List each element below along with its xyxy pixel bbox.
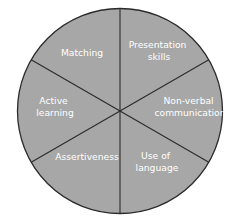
segment-label: Presentation [129, 39, 187, 50]
svg-text:Non-verbal communication: Non-verbal communication [154, 95, 225, 118]
segment-use-of-language: Use of language [136, 150, 179, 173]
svg-text:Assertiveness: Assertiveness [55, 151, 119, 162]
segment-label: Active [39, 95, 68, 106]
segment-label: Matching [61, 47, 103, 58]
svg-text:Active learning: Active learning [36, 95, 73, 118]
segment-matching: Matching [61, 47, 103, 58]
segment-label: language [136, 162, 179, 173]
segment-label: Non-verbal [163, 95, 213, 106]
segment-assertiveness: Assertiveness [55, 151, 119, 162]
segment-label: skills [148, 51, 171, 62]
segment-label: communication [154, 107, 225, 118]
svg-text:Matching: Matching [61, 47, 103, 58]
segment-label: Assertiveness [55, 151, 119, 162]
segment-non-verbal-communication: Non-verbal communication [154, 95, 225, 118]
segment-label: Use of [141, 150, 171, 161]
skills-wheel-diagram: Matching Presentation skills Non-verbal … [0, 0, 237, 220]
segment-active-learning: Active learning [36, 95, 73, 118]
svg-text:Use of language: Use of language [136, 150, 179, 173]
segment-label: learning [36, 107, 73, 118]
